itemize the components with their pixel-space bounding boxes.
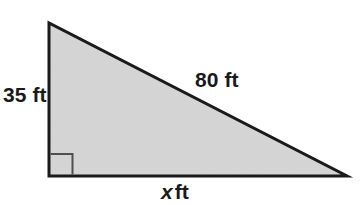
- hypotenuse-label: 80 ft: [195, 69, 239, 90]
- horizontal-leg-label: xft: [161, 181, 189, 202]
- triangle-diagram-svg: [0, 0, 361, 205]
- horizontal-leg-variable: x: [161, 180, 175, 203]
- horizontal-leg-unit: ft: [175, 180, 189, 203]
- triangle-figure: 35 ft 80 ft xft: [0, 0, 361, 205]
- vertical-leg-label: 35 ft: [3, 84, 47, 105]
